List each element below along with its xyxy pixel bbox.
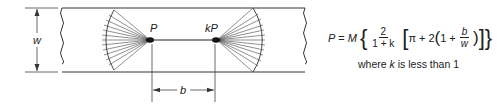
arrow-up-icon	[35, 9, 40, 16]
formula-equals: =	[338, 32, 344, 44]
fraction-2-numerator: b	[460, 26, 470, 38]
arrow-down-icon	[35, 64, 40, 71]
left-fan	[102, 10, 150, 70]
formula-caption: where k is less than 1	[358, 58, 459, 70]
arrow-right-icon	[207, 88, 214, 92]
left-load-label: P	[150, 22, 158, 34]
formula-plus-2: +	[449, 32, 455, 44]
formula-lhs: P	[328, 32, 335, 44]
right-load-label: kP	[205, 22, 219, 34]
formula-pi: π	[408, 32, 416, 44]
formula-open-brace: {	[360, 27, 367, 49]
width-label: w	[33, 34, 42, 46]
fraction-1-numerator: 2	[379, 26, 389, 38]
formula-close-brace: }	[485, 27, 492, 49]
spacing-label: b	[180, 84, 186, 96]
left-break-line	[61, 8, 64, 64]
caption-prefix: where	[358, 58, 387, 70]
load-formula: P = M { 2 1 + k [ π + 2 ( 1 + b w ) ] }	[328, 26, 492, 49]
formula-plus-1: +	[419, 32, 425, 44]
arrow-left-icon	[153, 88, 160, 92]
formula-one: 1	[440, 32, 446, 44]
formula-coef: M	[348, 32, 357, 44]
caption-suffix: is less than 1	[398, 58, 459, 70]
formula-fraction-1: 2 1 + k	[370, 26, 396, 49]
right-break-line	[304, 8, 307, 64]
plate-strip-diagram: w P kP	[0, 0, 320, 108]
right-fan	[217, 8, 265, 72]
fraction-1-denominator: 1 + k	[370, 38, 396, 49]
formula-fraction-2: b w	[459, 26, 470, 49]
caption-variable: k	[390, 58, 395, 70]
fraction-2-denominator: w	[459, 38, 470, 49]
